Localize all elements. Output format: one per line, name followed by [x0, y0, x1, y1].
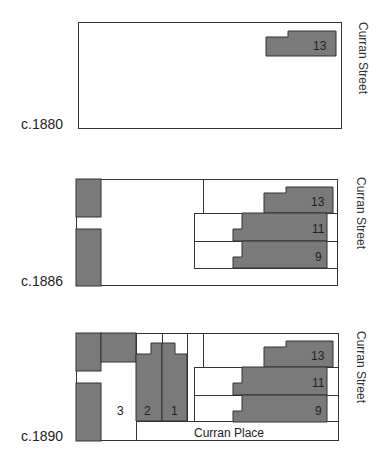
year-label: c.1890 — [21, 428, 63, 444]
lane-label: Curran Place — [194, 426, 264, 440]
lot-label: 11 — [312, 376, 325, 390]
building-west-bottom-1890 — [76, 383, 101, 441]
building-9-1886 — [233, 241, 327, 268]
lot-label: 2 — [144, 404, 151, 418]
lot-label: 9 — [315, 250, 322, 264]
year-label: c.1886 — [21, 273, 63, 289]
lot-label: 13 — [313, 39, 327, 53]
lot-label: 3 — [117, 404, 124, 418]
lot-label: 9 — [315, 404, 322, 418]
building-north-1890 — [101, 333, 136, 362]
street-label: Curran Street — [356, 22, 370, 94]
lot-label: 1 — [171, 404, 178, 418]
building-west-top-1890 — [76, 333, 101, 371]
building-9-1890 — [233, 395, 327, 422]
lot-label: 13 — [311, 349, 325, 363]
lot-label: 11 — [312, 222, 325, 236]
street-label: Curran Street — [354, 331, 368, 403]
street-label: Curran Street — [354, 177, 368, 249]
year-label: c.1880 — [21, 116, 63, 132]
historical-lot-diagram: 13 13 11 9 13 11 9 3 2 1 Curran Place — [0, 0, 388, 465]
building-west-bottom-1886 — [76, 229, 101, 286]
building-west-top-1886 — [76, 179, 101, 217]
lot-label: 13 — [311, 195, 325, 209]
